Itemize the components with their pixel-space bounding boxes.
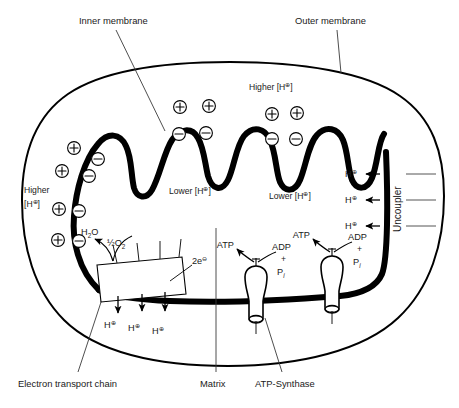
label-plus-left: +: [281, 254, 286, 264]
label-plus-right: +: [357, 244, 362, 254]
proton-base: H: [345, 169, 352, 179]
proton-base: H: [128, 323, 135, 333]
label-atp-left: ATP: [217, 240, 234, 250]
water-tail: O: [91, 227, 98, 237]
oxygen-sub: 2: [122, 243, 126, 250]
electrons-count: 2e: [192, 256, 202, 266]
lower-left-prefix: Lower [H: [169, 186, 203, 196]
lower-right-suffix: ]: [308, 191, 310, 201]
charge-positive: [56, 165, 69, 178]
charge-positive: [52, 234, 65, 247]
electrons-charge: ⊖: [202, 255, 207, 262]
proton-charge: ⊕: [111, 319, 116, 326]
label-electron-transport-chain: Electron transport chain: [18, 378, 117, 389]
higher-top-suffix: ]: [290, 82, 292, 92]
label-inner-membrane: Inner membrane: [79, 15, 148, 26]
lower-right-prefix: Lower [H: [269, 191, 303, 201]
proton-charge: ⊕: [135, 322, 140, 329]
label-matrix: Matrix: [200, 378, 226, 389]
oxygen-base: O: [115, 238, 122, 248]
outer-membrane-outline: [22, 62, 444, 366]
charge-negative: [92, 153, 105, 166]
charge-positive: [266, 108, 279, 121]
charge-negative: [173, 128, 186, 141]
charge-positive: [174, 101, 187, 114]
proton-base: H: [345, 221, 352, 231]
label-uncoupler: Uncoupler: [392, 186, 403, 232]
water-base: H: [81, 227, 88, 237]
diagram-canvas: Inner membrane Outer membrane Electron t…: [0, 0, 459, 408]
charge-negative: [290, 133, 303, 146]
charge-positive: [203, 100, 216, 113]
label-atp-right: ATP: [293, 230, 310, 240]
proton-charge: ⊕: [352, 194, 357, 201]
charge-positive: [291, 107, 304, 120]
charge-positive: [53, 203, 66, 216]
svg-text:[H⊕]: [H⊕]: [24, 198, 40, 209]
lower-left-suffix: ]: [208, 186, 210, 196]
proton-charge: ⊕: [159, 325, 164, 332]
charge-negative: [200, 127, 213, 140]
charge-negative: [83, 170, 96, 183]
synthase-head: [245, 266, 267, 323]
proton-charge: ⊕: [352, 168, 357, 175]
higher-top-prefix: Higher [H: [249, 82, 285, 92]
proton-base: H: [345, 195, 352, 205]
leader-outer-membrane: [337, 30, 341, 73]
synthase-head: [321, 256, 343, 313]
proton-base: H: [104, 320, 111, 330]
proton-charge: ⊕: [352, 220, 357, 227]
charge-negative: [73, 205, 86, 218]
label-adp-right: ADP: [348, 232, 367, 242]
mitochondrion-diagram: Inner membrane Outer membrane Electron t…: [0, 0, 459, 408]
label-adp-left: ADP: [272, 242, 291, 252]
charge-negative: [266, 133, 279, 146]
higher-left-line1: Higher: [24, 185, 49, 195]
higher-left-prefix: [H: [24, 199, 33, 209]
label-outer-membrane: Outer membrane: [295, 15, 366, 26]
proton-base: H: [152, 326, 159, 336]
charge-positive: [68, 142, 81, 155]
label-atp-synthase: ATP-Synthase: [255, 378, 315, 389]
higher-left-suffix: ]: [38, 199, 40, 209]
